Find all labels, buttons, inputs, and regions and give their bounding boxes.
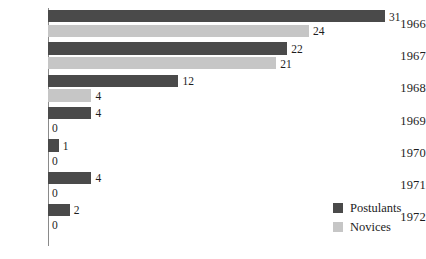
bar-postulants-1967 (48, 42, 287, 54)
legend-item-novices[interactable]: Novices (333, 219, 401, 235)
bar-value-postulants-1970: 1 (63, 141, 69, 153)
bar-value-novices-1969: 0 (52, 123, 58, 135)
bar-value-postulants-1969: 4 (95, 108, 101, 120)
year-label-1968: 1968 (382, 82, 426, 95)
year-label-1970: 1970 (382, 147, 426, 160)
bar-value-novices-1971: 0 (52, 188, 58, 200)
bar-value-postulants-1967: 22 (291, 44, 303, 56)
bar-chart: 1966312419672221196812419694019701019714… (0, 0, 426, 259)
year-label-1971: 1971 (382, 179, 426, 192)
legend-label-novices: Novices (350, 221, 391, 234)
legend-label-postulants: Postulants (350, 202, 401, 215)
bar-postulants-1971 (48, 172, 91, 184)
chart-legend: Postulants Novices (333, 200, 401, 238)
legend-swatch-postulants-icon (333, 203, 343, 213)
legend-item-postulants[interactable]: Postulants (333, 200, 401, 216)
legend-swatch-novices-icon (333, 222, 343, 232)
bar-value-novices-1970: 0 (52, 156, 58, 168)
bar-value-postulants-1971: 4 (95, 173, 101, 185)
bar-value-novices-1968: 4 (95, 91, 101, 103)
bar-value-novices-1972: 0 (52, 220, 58, 232)
bar-novices-1968 (48, 89, 91, 101)
bar-postulants-1968 (48, 75, 178, 87)
year-label-1969: 1969 (382, 115, 426, 128)
bar-postulants-1972 (48, 204, 70, 216)
bar-value-postulants-1972: 2 (74, 205, 80, 217)
bar-postulants-1969 (48, 107, 91, 119)
bar-postulants-1966 (48, 10, 385, 22)
bar-value-postulants-1968: 12 (182, 76, 194, 88)
bar-novices-1967 (48, 57, 276, 69)
bar-postulants-1970 (48, 139, 59, 151)
bar-value-novices-1966: 24 (313, 26, 325, 38)
bar-value-novices-1967: 21 (280, 59, 292, 71)
bar-value-postulants-1966: 31 (389, 12, 401, 24)
bar-novices-1966 (48, 25, 309, 37)
year-label-1967: 1967 (382, 50, 426, 63)
